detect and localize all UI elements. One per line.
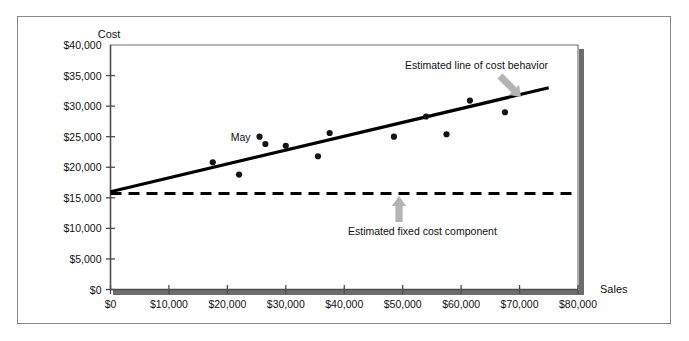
cost-behavior-annotation-arrow [497, 73, 521, 97]
x-axis-tick-label: $20,000 [208, 298, 246, 310]
fixed-cost-annotation-arrow [392, 196, 406, 222]
data-point-label-group: May [231, 131, 252, 143]
y-axis-tick-label: $35,000 [64, 70, 102, 82]
x-axis-tick-label: $40,000 [325, 298, 363, 310]
x-axis-tick-label: $80,000 [559, 298, 597, 310]
data-point [283, 143, 289, 149]
x-axis-tick-label: $70,000 [501, 298, 539, 310]
x-axis-tick-label: $50,000 [384, 298, 422, 310]
cost-behavior-solid-line [111, 88, 549, 192]
y-axis-tick-label: $0 [90, 284, 102, 296]
y-axis-tick-label: $5,000 [69, 253, 101, 265]
x-axis-tick-label: $60,000 [442, 298, 480, 310]
data-point [467, 98, 473, 104]
x-axis-title: Sales [600, 283, 628, 295]
annotation-group: Estimated line of cost behaviorEstimated… [348, 59, 548, 237]
figure-page: $0$5,000$10,000$15,000$20,000$25,000$30,… [0, 0, 689, 341]
data-point [391, 134, 397, 140]
fixed-cost-annotation-text: Estimated fixed cost component [348, 225, 497, 237]
y-axis-tick-label: $10,000 [64, 222, 102, 234]
y-axis-tick-label: $40,000 [64, 39, 102, 51]
x-axis-tick-label: $10,000 [150, 298, 188, 310]
y-axis-tick-label: $20,000 [64, 161, 102, 173]
y-axis-tick-label: $15,000 [64, 192, 102, 204]
data-point [502, 109, 508, 115]
y-axis-tick-label: $25,000 [64, 131, 102, 143]
y-axis-title: Cost [98, 28, 121, 40]
x-axis-tick-label: $30,000 [267, 298, 305, 310]
y-axis-tick-group: $0$5,000$10,000$15,000$20,000$25,000$30,… [64, 39, 115, 296]
data-point [262, 141, 268, 147]
data-point [236, 171, 242, 177]
data-point [210, 159, 216, 165]
cost-behavior-annotation-text: Estimated line of cost behavior [405, 59, 548, 71]
data-point-label-may: May [231, 131, 252, 143]
cost-behavior-scatter-chart: $0$5,000$10,000$15,000$20,000$25,000$30,… [0, 0, 689, 341]
data-point [327, 130, 333, 136]
data-point [315, 153, 321, 159]
data-point [256, 134, 262, 140]
y-axis-tick-label: $30,000 [64, 100, 102, 112]
x-axis-tick-label: $0 [105, 298, 117, 310]
estimated-cost-behavior-line [111, 88, 549, 192]
data-point [423, 113, 429, 119]
data-point [443, 131, 449, 137]
x-axis-tick-group: $0$10,000$20,000$30,000$40,000$50,000$60… [105, 285, 597, 310]
